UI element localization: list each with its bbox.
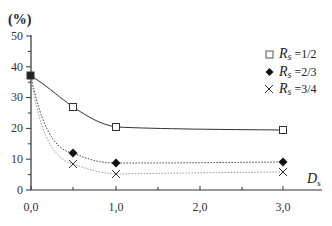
legend-diamond-icon <box>266 68 274 76</box>
y-ticks <box>26 36 31 190</box>
series-rs-1-2-markers <box>27 72 287 134</box>
series-rs-2-3-line <box>31 76 283 163</box>
x-axis-label: Ds <box>306 171 321 188</box>
legend-item-rs-2-3: Rs =2/3 <box>278 64 317 80</box>
legend: Rs =1/2 Rs =2/3 Rs =3/4 <box>265 46 317 97</box>
y-tick-label: 0 <box>17 183 23 197</box>
y-tick-label: 40 <box>11 60 23 74</box>
x-tick-label: 2,0 <box>193 200 208 214</box>
x-tick-label: 0,0 <box>24 200 39 214</box>
series-rs-3-4-line <box>31 76 283 174</box>
y-tick-label: 20 <box>11 121 23 135</box>
y-axis-unit: (%) <box>8 12 32 28</box>
legend-item-rs-3-4: Rs =3/4 <box>278 81 317 97</box>
x-tick-label: 3,0 <box>276 200 291 214</box>
legend-item-rs-1-2: Rs =1/2 <box>278 46 317 62</box>
legend-square-icon <box>266 51 273 58</box>
x-tick-label: 1,0 <box>109 200 124 214</box>
y-tick-label: 30 <box>11 90 23 104</box>
line-chart: (%) 0 10 20 30 40 50 0,0 1,0 2,0 <box>0 0 332 226</box>
legend-cross-icon <box>265 85 273 93</box>
y-tick-label: 10 <box>11 152 23 166</box>
y-tick-label: 50 <box>11 29 23 43</box>
series-rs-1-2-line <box>31 76 283 130</box>
series-rs-2-3-markers <box>69 149 288 168</box>
